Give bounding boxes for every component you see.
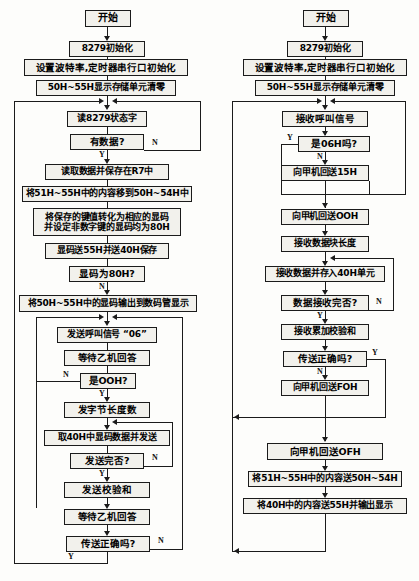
left-label-is00h-n: N — [63, 371, 69, 379]
left-conn-call-wait — [107, 343, 108, 350]
right-node-trans-ok: 传送正确吗? — [283, 351, 367, 367]
right-node-recv-call: 接收呼叫信号 — [282, 111, 368, 127]
right-label-is06h-y: Y — [287, 134, 293, 142]
left-senddone-n-rail — [172, 422, 173, 466]
left-outerloop-rail — [14, 101, 15, 563]
right-send15h-riser — [405, 101, 406, 194]
right-transok-y-drop — [385, 359, 386, 417]
left-node-shift-51-55: 将51H~55H中的内容移到50H~54H中 — [22, 186, 192, 202]
right-label-recvdone-n: N — [376, 298, 382, 306]
right-is06h-y-exit — [281, 144, 299, 145]
right-sendf0h-arrow — [234, 414, 239, 420]
right-send15h-run — [281, 194, 406, 195]
left-hasdata-n-exit — [144, 150, 200, 151]
left-label-transok-n: N — [158, 537, 164, 545]
left-midloop-left-top — [36, 317, 101, 318]
right-arrow-junction-recvcall — [322, 105, 328, 110]
right-merge-run — [325, 417, 386, 418]
left-node-take-40h-send: 取40H中显码数据并发送 — [44, 430, 170, 446]
left-hasdata-n-top — [114, 101, 201, 102]
right-node-move-40h: 将40H中的内容送55H并输出显示 — [243, 498, 407, 514]
right-recvdone-n-exit — [369, 310, 394, 311]
left-node-read-status: 读8279状态字 — [67, 111, 147, 127]
right-node-move-51-55: 将51H~55H中的内容送50H~54H — [248, 471, 402, 487]
left-label-hasdata-y: Y — [99, 151, 105, 159]
left-conn-wait-is00h — [107, 366, 108, 373]
left-node-key-to-code: 将保存的键值转化为相应的显码 并设定非数字键的显码均为80H — [33, 208, 181, 236]
left-node-code-to-55-40: 显码送55H并送40H保存 — [45, 243, 169, 259]
left-node-is-code-80h: 显码为80H? — [69, 266, 145, 282]
left-node-clear-display: 50H~55H显示存储单元清零 — [36, 80, 176, 96]
right-node-recv-done: 数据接收完否? — [281, 295, 369, 311]
left-hasdata-n-riser — [200, 101, 201, 151]
left-label-hasdata-n: N — [152, 139, 158, 147]
left-midloop-right-rail — [182, 317, 183, 549]
left-midloop-right-top — [114, 317, 183, 318]
left-node-send-len: 发字节长度数 — [64, 402, 150, 418]
right-node-start: 开始 — [303, 10, 349, 27]
left-node-is-00h: 是OOH? — [80, 373, 136, 389]
left-midloop-left-rail — [36, 317, 37, 508]
right-node-recv-store-40h: 接收数据并存入40H单元 — [265, 266, 385, 282]
left-node-wait-reply-2: 等待乙机回答 — [64, 509, 150, 525]
left-conn-status-hasdata — [107, 127, 108, 134]
right-innerloop-top — [332, 101, 406, 102]
right-node-send-00h: 向甲机回送OOH — [281, 209, 369, 225]
right-node-init8279: 8279初始化 — [287, 41, 363, 57]
right-transok-y-exit — [367, 359, 385, 360]
left-transok-y-run — [14, 563, 108, 564]
left-node-send-call-06: 发送呼叫信号 “06” — [57, 327, 157, 343]
right-bottom-return-run — [232, 551, 326, 552]
left-conn-take40h-senddone — [107, 446, 108, 453]
right-sendf0h-run — [232, 417, 326, 418]
left-node-send-done: 发送完否? — [70, 453, 144, 469]
right-node-send-f0h: 向甲机回送FOH — [281, 380, 369, 396]
left-arrow-junction-call — [104, 321, 110, 326]
right-recvdone-n-top — [332, 258, 394, 259]
right-send15h-drop — [369, 181, 370, 194]
left-outerloop-top — [14, 101, 101, 102]
left-node-read-save-r7: 读取数据并保存在R7中 — [45, 164, 169, 180]
left-midloop-left-arrow — [99, 314, 104, 320]
right-node-send-0fh: 向甲机回送OFH — [267, 443, 383, 460]
right-outerloop-rail — [232, 101, 233, 551]
flowchart-canvas: 开始 8279初始化 设置波特率,定时器串行口初始化 50H~55H显示存储单元… — [0, 0, 419, 581]
right-arrow-merge-send0fh — [322, 437, 328, 442]
left-midloop-right-arrow — [112, 314, 117, 320]
right-node-send-15h: 向甲机回送15H — [281, 165, 369, 181]
left-outerloop-arrow — [99, 98, 104, 104]
right-bottom-return-drop — [325, 514, 326, 551]
left-senddone-n-exit — [144, 466, 173, 467]
right-node-recv-checksum: 接收累加校验和 — [281, 324, 369, 340]
left-node-has-data: 有数据? — [70, 134, 144, 150]
right-innerloop-arrow — [330, 98, 335, 104]
right-node-recv-len: 接收数据块长度 — [281, 236, 369, 252]
right-sendf0h-drop — [325, 396, 326, 417]
right-node-clear-display: 50H~55H显示存储单元清零 — [255, 80, 395, 96]
left-node-wait-reply: 等待乙机回答 — [64, 350, 150, 366]
left-senddone-n-top — [114, 422, 173, 423]
right-outerloop-top — [232, 101, 319, 102]
left-arrow-junction-read — [104, 105, 110, 110]
right-node-is-06h: 是06H吗? — [298, 136, 370, 152]
right-recvdone-n-rail — [393, 258, 394, 310]
left-node-baud-init: 设置波特率,定时器串行口初始化 — [24, 59, 188, 76]
left-hasdata-n-arrow — [112, 98, 117, 104]
right-node-baud-init: 设置波特率,定时器串行口初始化 — [243, 59, 407, 76]
left-conn-keycode-send55 — [107, 236, 108, 243]
left-label-transok-y: Y — [68, 553, 74, 561]
left-transok-y-drop — [107, 552, 108, 563]
right-label-transok-y: Y — [372, 349, 378, 357]
left-transok-n-exit — [150, 549, 183, 550]
left-node-start: 开始 — [85, 10, 131, 27]
right-bottom-return-arrow — [234, 548, 239, 554]
left-conn-send55-is80 — [107, 259, 108, 266]
right-outerloop-arrow — [317, 98, 322, 104]
left-node-init8279: 8279初始化 — [69, 41, 145, 57]
left-node-trans-ok: 传送正确吗? — [66, 536, 150, 552]
right-recvdone-n-arrow — [330, 255, 335, 261]
left-node-output-display: 将50H~55H中的显码输出到数码管显示 — [19, 295, 197, 312]
right-arrow-trunk-send00h — [322, 203, 328, 208]
left-node-send-checksum: 发送校验和 — [64, 482, 150, 498]
left-is00h-n-exit — [36, 381, 80, 382]
